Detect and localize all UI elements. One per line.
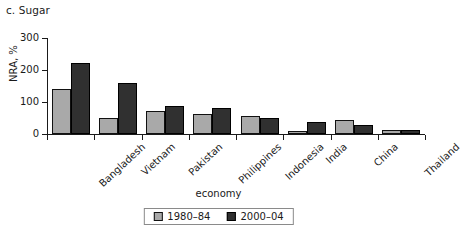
bar[interactable]	[52, 89, 71, 134]
bar[interactable]	[354, 125, 373, 134]
y-axis-tick: 300	[42, 38, 47, 39]
bar[interactable]	[241, 116, 260, 134]
y-axis-tick-label: 300	[20, 31, 39, 44]
x-axis-title: economy	[0, 188, 437, 199]
y-axis-tick: 100	[42, 102, 47, 103]
bar-group	[193, 38, 231, 134]
y-axis-tick-label: 200	[20, 63, 39, 76]
chart-legend: 1980–84 2000–04	[143, 208, 293, 225]
bar-group	[335, 38, 373, 134]
x-axis-tick	[331, 135, 332, 140]
bar[interactable]	[307, 122, 326, 134]
bar[interactable]	[165, 106, 184, 134]
y-axis-tick-label: 100	[20, 95, 39, 108]
bar[interactable]	[335, 120, 354, 134]
bar[interactable]	[212, 108, 231, 134]
x-axis-tick	[189, 135, 190, 140]
bar[interactable]	[71, 63, 90, 134]
x-axis-tick	[142, 135, 143, 140]
y-axis-line	[47, 38, 48, 135]
legend-label: 1980–84	[167, 211, 210, 222]
legend-swatch-icon	[153, 212, 162, 221]
legend-item[interactable]: 2000–04	[227, 211, 284, 222]
bar[interactable]	[382, 130, 401, 134]
bar-group	[146, 38, 184, 134]
legend-item[interactable]: 1980–84	[153, 211, 210, 222]
x-axis-category-label: India	[323, 141, 348, 166]
y-axis-tick: 200	[42, 70, 47, 71]
bar[interactable]	[146, 111, 165, 134]
bar[interactable]	[288, 131, 307, 134]
bar-group	[99, 38, 137, 134]
bar-group	[382, 38, 420, 134]
x-axis-tick	[425, 135, 426, 140]
bar-group	[241, 38, 279, 134]
plot-area: 0100200300	[47, 38, 425, 135]
x-axis-tick	[283, 135, 284, 140]
x-axis-category-label: Pakistan	[186, 141, 224, 178]
bar[interactable]	[401, 130, 420, 134]
y-axis-tick-label: 0	[33, 127, 39, 140]
legend-swatch-icon	[227, 212, 236, 221]
bar[interactable]	[260, 118, 279, 134]
x-axis-tick	[378, 135, 379, 140]
bar[interactable]	[193, 114, 212, 134]
x-axis-category-label: Indonesia	[283, 141, 326, 182]
y-axis-title: NRA, %	[8, 34, 19, 94]
bar-group	[52, 38, 90, 134]
bar[interactable]	[118, 83, 137, 134]
x-axis-tick	[47, 135, 48, 140]
x-axis-category-label: Philippines	[237, 141, 284, 186]
chart-title: c. Sugar	[6, 4, 50, 16]
x-axis-tick	[236, 135, 237, 140]
x-axis-category-label: China	[372, 141, 400, 169]
bar[interactable]	[99, 118, 118, 134]
x-axis-tick	[94, 135, 95, 140]
x-axis-category-label: Thailand	[423, 141, 462, 178]
legend-label: 2000–04	[241, 211, 284, 222]
x-axis-category-label: Bangladesh	[96, 141, 146, 189]
bar-group	[288, 38, 326, 134]
